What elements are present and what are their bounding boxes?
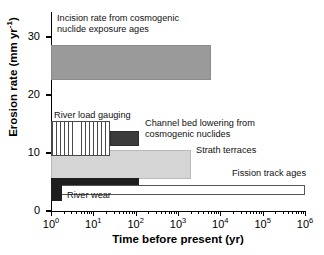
- x-minor-tick: [123, 211, 124, 214]
- erosion-rate-chart-figure: 0 10 20 30 100 101 102 103 104 105: [0, 0, 324, 255]
- annotation-strath-terraces: Strath terraces: [196, 145, 256, 155]
- x-minor-tick: [129, 211, 130, 214]
- annotation-river-wear: River wear: [67, 190, 111, 200]
- x-minor-tick: [241, 211, 242, 214]
- y-axis-title-close: ): [7, 17, 19, 21]
- y-tick-label-20: 20: [20, 89, 40, 100]
- x-minor-tick: [303, 211, 304, 214]
- x-minor-tick: [296, 211, 297, 214]
- x-minor-tick: [256, 211, 257, 214]
- annotation-channel-line2: cosmogenic nuclides: [145, 129, 230, 139]
- x-tick-label-1e2: 102: [127, 218, 143, 230]
- bar-channel-bed-lowering: [110, 131, 139, 146]
- x-tick-label-1e4: 104: [212, 218, 228, 230]
- x-tick-label-1e3-exp: 3: [182, 216, 186, 225]
- x-minor-tick: [233, 211, 234, 214]
- x-minor-tick: [301, 211, 302, 214]
- x-tick-label-1e4-mantissa: 10: [212, 218, 224, 230]
- bar-river-wear-band: [51, 178, 139, 184]
- y-tick-label-10: 10: [20, 147, 40, 158]
- x-minor-tick: [171, 211, 172, 214]
- x-minor-tick: [261, 211, 262, 214]
- x-tick-label-1e5-exp: 5: [267, 216, 271, 225]
- x-minor-tick: [81, 211, 82, 214]
- x-minor-tick: [288, 211, 289, 214]
- x-tick-1e3: [178, 211, 179, 216]
- x-tick-label-1e1-mantissa: 10: [85, 218, 97, 230]
- x-tick-label-1e1: 101: [85, 218, 101, 230]
- x-minor-tick: [203, 211, 204, 214]
- plot-area: 0 10 20 30 100 101 102 103 104 105: [0, 0, 324, 255]
- x-tick-1e6: [305, 211, 306, 216]
- x-minor-tick: [76, 211, 77, 214]
- x-tick-label-1e6-exp: 6: [309, 216, 313, 225]
- bar-river-load-gauging: [51, 121, 110, 156]
- x-tick-label-1e6-mantissa: 10: [297, 218, 309, 230]
- x-minor-tick: [216, 211, 217, 214]
- x-minor-tick: [156, 211, 157, 214]
- x-minor-tick: [87, 211, 88, 214]
- x-axis-title-text: Time before present (yr): [112, 233, 243, 245]
- x-tick-1e5: [263, 211, 264, 216]
- x-tick-label-1e4-exp: 4: [224, 216, 228, 225]
- x-minor-tick: [148, 211, 149, 214]
- y-axis-title: Erosion rate (mm yr-1): [7, 17, 19, 137]
- x-tick-1e0: [51, 211, 52, 216]
- x-minor-tick: [214, 211, 215, 214]
- x-tick-label-1e3: 103: [170, 218, 186, 230]
- x-tick-label-1e0-mantissa: 10: [43, 218, 55, 230]
- x-tick-label-1e2-mantissa: 10: [127, 218, 139, 230]
- x-minor-tick: [71, 211, 72, 214]
- x-tick-label-1e0: 100: [43, 218, 59, 230]
- x-minor-tick: [119, 211, 120, 214]
- x-tick-label-1e5-mantissa: 10: [254, 218, 266, 230]
- x-tick-label-1e2-exp: 2: [140, 216, 144, 225]
- x-minor-tick: [161, 211, 162, 214]
- annotation-channel-line1: Channel bed lowering from: [145, 118, 255, 128]
- x-tick-1e4: [220, 211, 221, 216]
- y-tick-label-30: 30: [20, 31, 40, 42]
- x-minor-tick: [292, 211, 293, 214]
- x-minor-tick: [275, 211, 276, 214]
- annotation-incision-line1: Incision rate from cosmogenic: [57, 13, 179, 23]
- y-tick-30: [46, 36, 51, 37]
- x-minor-tick: [134, 211, 135, 214]
- annotation-fission-track-ages: Fission track ages: [232, 168, 306, 178]
- y-tick-20: [46, 94, 51, 95]
- x-minor-tick: [84, 211, 85, 214]
- x-minor-tick: [132, 211, 133, 214]
- annotation-river-load-gauging: River load gauging: [54, 110, 131, 120]
- x-minor-tick: [89, 211, 90, 214]
- x-tick-1e2: [136, 211, 137, 216]
- x-minor-tick: [208, 211, 209, 214]
- x-axis-title: Time before present (yr): [51, 233, 305, 245]
- x-minor-tick: [191, 211, 192, 214]
- y-tick-label-0: 0: [20, 205, 40, 216]
- x-tick-label-1e6: 106: [297, 218, 313, 230]
- x-minor-tick: [174, 211, 175, 214]
- x-minor-tick: [165, 211, 166, 214]
- x-minor-tick: [298, 211, 299, 214]
- x-minor-tick: [211, 211, 212, 214]
- x-minor-tick: [218, 211, 219, 214]
- x-tick-label-1e0-exp: 0: [55, 216, 59, 225]
- x-minor-tick: [176, 211, 177, 214]
- x-tick-label-1e3-mantissa: 10: [170, 218, 182, 230]
- x-minor-tick: [259, 211, 260, 214]
- x-minor-tick: [91, 211, 92, 214]
- y-axis-title-exponent: -1: [5, 21, 14, 28]
- x-tick-label-1e5: 105: [254, 218, 270, 230]
- annotation-incision-line2: nuclide exposure ages: [57, 24, 149, 34]
- x-minor-tick: [198, 211, 199, 214]
- x-minor-tick: [253, 211, 254, 214]
- y-axis-title-wrapper: Erosion rate (mm yr-1): [3, 0, 21, 177]
- x-tick-label-1e1-exp: 1: [97, 216, 101, 225]
- x-tick-1e1: [93, 211, 94, 216]
- bar-incision-rate: [51, 45, 211, 80]
- x-minor-tick: [126, 211, 127, 214]
- y-axis-title-text: Erosion rate (mm yr: [7, 28, 19, 137]
- x-minor-tick: [114, 211, 115, 214]
- x-minor-tick: [169, 211, 170, 214]
- x-minor-tick: [283, 211, 284, 214]
- x-minor-tick: [106, 211, 107, 214]
